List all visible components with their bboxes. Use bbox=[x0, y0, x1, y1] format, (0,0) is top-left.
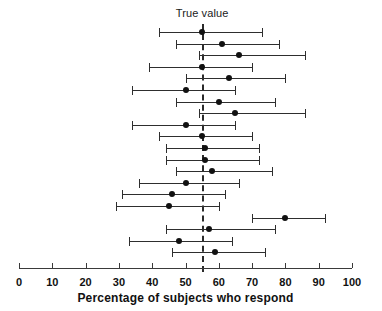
x-tick bbox=[186, 263, 187, 268]
study-row bbox=[0, 97, 382, 108]
x-tick-label: 40 bbox=[146, 276, 158, 288]
point-estimate-marker bbox=[216, 99, 222, 105]
study-row bbox=[0, 155, 382, 166]
study-row bbox=[0, 178, 382, 189]
point-estimate-marker bbox=[232, 110, 238, 116]
x-tick-label: 60 bbox=[213, 276, 225, 288]
whisker-lower-cap bbox=[129, 237, 130, 246]
whisker-upper-cap bbox=[265, 248, 266, 257]
x-tick bbox=[52, 263, 53, 268]
confidence-interval-line bbox=[166, 148, 259, 149]
confidence-interval-line bbox=[199, 113, 306, 114]
whisker-lower-cap bbox=[199, 51, 200, 60]
whisker-lower-cap bbox=[139, 179, 140, 188]
confidence-interval-line bbox=[166, 160, 259, 161]
x-tick bbox=[119, 263, 120, 268]
x-tick-label: 30 bbox=[113, 276, 125, 288]
point-estimate-marker bbox=[183, 122, 189, 128]
whisker-upper-cap bbox=[279, 40, 280, 49]
confidence-interval-line bbox=[176, 102, 276, 103]
whisker-lower-cap bbox=[166, 156, 167, 165]
confidence-interval-line bbox=[199, 55, 306, 56]
whisker-upper-cap bbox=[272, 167, 273, 176]
point-estimate-marker bbox=[219, 41, 225, 47]
true-value-label: True value bbox=[176, 7, 229, 19]
point-estimate-marker bbox=[209, 168, 215, 174]
whisker-upper-cap bbox=[275, 98, 276, 107]
point-estimate-marker bbox=[166, 203, 172, 209]
whisker-lower-cap bbox=[166, 144, 167, 153]
point-estimate-marker bbox=[206, 226, 212, 232]
whisker-lower-cap bbox=[172, 248, 173, 257]
whisker-upper-cap bbox=[275, 225, 276, 234]
study-row bbox=[0, 201, 382, 212]
whisker-upper-cap bbox=[235, 121, 236, 130]
x-tick-label: 0 bbox=[16, 276, 22, 288]
whisker-lower-cap bbox=[166, 225, 167, 234]
point-estimate-marker bbox=[282, 215, 288, 221]
study-row bbox=[0, 62, 382, 73]
whisker-lower-cap bbox=[252, 214, 253, 223]
study-row bbox=[0, 143, 382, 154]
x-tick bbox=[19, 263, 20, 268]
whisker-upper-cap bbox=[259, 156, 260, 165]
forest-plot: True value 0102030405060708090100 Percen… bbox=[0, 0, 382, 311]
study-row bbox=[0, 39, 382, 50]
point-estimate-marker bbox=[199, 64, 205, 70]
whisker-upper-cap bbox=[262, 28, 263, 37]
point-estimate-marker bbox=[236, 52, 242, 58]
confidence-interval-line bbox=[159, 136, 252, 137]
confidence-interval-line bbox=[252, 218, 325, 219]
x-tick bbox=[352, 263, 353, 268]
study-row bbox=[0, 224, 382, 235]
point-estimate-marker bbox=[199, 29, 205, 35]
point-estimate-marker bbox=[202, 157, 208, 163]
whisker-lower-cap bbox=[159, 132, 160, 141]
study-row bbox=[0, 50, 382, 61]
x-tick bbox=[219, 263, 220, 268]
whisker-lower-cap bbox=[186, 74, 187, 83]
whisker-lower-cap bbox=[176, 167, 177, 176]
x-tick-label: 20 bbox=[79, 276, 91, 288]
study-row bbox=[0, 189, 382, 200]
x-axis-title: Percentage of subjects who respond bbox=[77, 291, 293, 305]
x-tick-label: 50 bbox=[179, 276, 191, 288]
x-tick bbox=[152, 263, 153, 268]
whisker-lower-cap bbox=[132, 86, 133, 95]
whisker-upper-cap bbox=[225, 190, 226, 199]
whisker-lower-cap bbox=[122, 190, 123, 199]
study-row bbox=[0, 85, 382, 96]
whisker-upper-cap bbox=[252, 132, 253, 141]
x-tick bbox=[285, 263, 286, 268]
whisker-upper-cap bbox=[232, 237, 233, 246]
whisker-upper-cap bbox=[325, 214, 326, 223]
confidence-interval-line bbox=[176, 44, 279, 45]
point-estimate-marker bbox=[183, 180, 189, 186]
whisker-upper-cap bbox=[259, 144, 260, 153]
point-estimate-marker bbox=[183, 87, 189, 93]
point-estimate-marker bbox=[169, 191, 175, 197]
whisker-upper-cap bbox=[305, 51, 306, 60]
confidence-interval-line bbox=[186, 78, 286, 79]
whisker-upper-cap bbox=[235, 86, 236, 95]
whisker-upper-cap bbox=[285, 74, 286, 83]
study-row bbox=[0, 166, 382, 177]
whisker-lower-cap bbox=[159, 28, 160, 37]
confidence-interval-line bbox=[159, 32, 262, 33]
whisker-lower-cap bbox=[149, 63, 150, 72]
whisker-upper-cap bbox=[239, 179, 240, 188]
whisker-lower-cap bbox=[176, 98, 177, 107]
study-row bbox=[0, 131, 382, 142]
whisker-lower-cap bbox=[199, 109, 200, 118]
x-tick bbox=[86, 263, 87, 268]
point-estimate-marker bbox=[199, 133, 205, 139]
confidence-interval-line bbox=[172, 252, 265, 253]
study-row bbox=[0, 27, 382, 38]
whisker-upper-cap bbox=[252, 63, 253, 72]
study-row bbox=[0, 236, 382, 247]
study-row bbox=[0, 120, 382, 131]
x-tick bbox=[319, 263, 320, 268]
confidence-interval-line bbox=[166, 229, 276, 230]
confidence-interval-line bbox=[139, 183, 239, 184]
point-estimate-marker bbox=[212, 249, 218, 255]
